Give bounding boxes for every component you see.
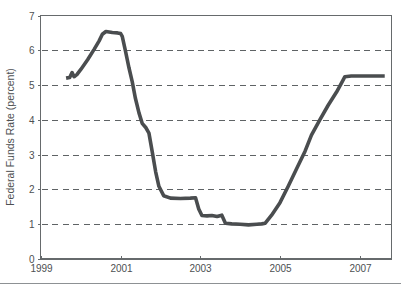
- y-tick-label-3: 3: [29, 150, 35, 161]
- y-tick-label-1: 1: [29, 219, 35, 230]
- x-axis-tick-labels: 19992001200320052007: [30, 263, 372, 274]
- data-line-series-0: [66, 32, 385, 225]
- x-tick-label-2005: 2005: [269, 263, 292, 274]
- y-axis-title: Federal Funds Rate (percent): [4, 68, 16, 206]
- x-tick-label-2001: 2001: [110, 263, 133, 274]
- x-tick-label-1999: 1999: [30, 263, 53, 274]
- y-tick-label-6: 6: [29, 45, 35, 56]
- x-tick-label-2003: 2003: [189, 263, 212, 274]
- federal-funds-rate-line-chart: 01234567 19992001200320052007 Federal Fu…: [0, 0, 401, 291]
- y-axis-tick-labels: 01234567: [29, 11, 35, 265]
- x-tick-label-2007: 2007: [349, 263, 372, 274]
- y-tick-label-2: 2: [29, 184, 35, 195]
- data-series-group: [66, 32, 385, 225]
- y-tick-label-5: 5: [29, 80, 35, 91]
- chart-figure: 01234567 19992001200320052007 Federal Fu…: [0, 0, 401, 291]
- footer-divider: [0, 283, 401, 284]
- gridlines: [42, 51, 391, 225]
- y-tick-label-7: 7: [29, 11, 35, 22]
- y-tick-label-4: 4: [29, 115, 35, 126]
